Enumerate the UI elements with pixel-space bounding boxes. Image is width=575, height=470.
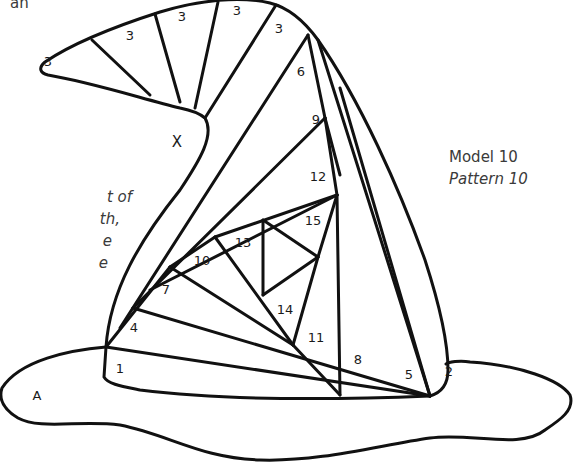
label-4: 4: [130, 320, 138, 335]
label-15: 15: [305, 213, 322, 228]
label-3: 3: [178, 9, 186, 24]
label-8: 8: [354, 352, 362, 367]
line-8-edge: [293, 345, 340, 395]
label-5: 5: [405, 367, 413, 382]
curl-line-b: [155, 14, 180, 102]
line-4-edge: [133, 308, 430, 396]
label-brim-a: A: [33, 388, 42, 403]
label-3: 3: [126, 28, 134, 43]
label-13: 13: [235, 235, 252, 250]
label-14: 14: [277, 302, 294, 317]
pattern-caption: Pattern 10: [449, 169, 528, 190]
label-9: 9: [312, 112, 320, 127]
label-3: 3: [233, 3, 241, 18]
line-5-edge: [340, 88, 430, 396]
line-13-diag: [215, 237, 293, 345]
curl-line-c: [195, 2, 218, 108]
label-3: 3: [44, 54, 52, 69]
label-3: 3: [275, 21, 283, 36]
label-11: 11: [308, 330, 325, 345]
strip-1-top-edge: [106, 347, 430, 396]
label-6: 6: [297, 64, 305, 79]
label-12: 12: [310, 169, 327, 184]
label-10: 10: [194, 253, 211, 268]
line-8-vertical: [337, 195, 340, 395]
line-7-10: [170, 267, 293, 345]
hat-pattern-diagram: 3 3 3 3 3 6 9 12 15 13 10 7 14 11 4 1 8 …: [0, 0, 575, 470]
label-x: X: [172, 133, 182, 151]
label-2: 2: [445, 364, 453, 379]
label-7: 7: [162, 282, 170, 297]
label-1: 1: [116, 361, 124, 376]
model-caption: Model 10: [449, 147, 518, 168]
hat-brim-outline: [1, 347, 571, 460]
